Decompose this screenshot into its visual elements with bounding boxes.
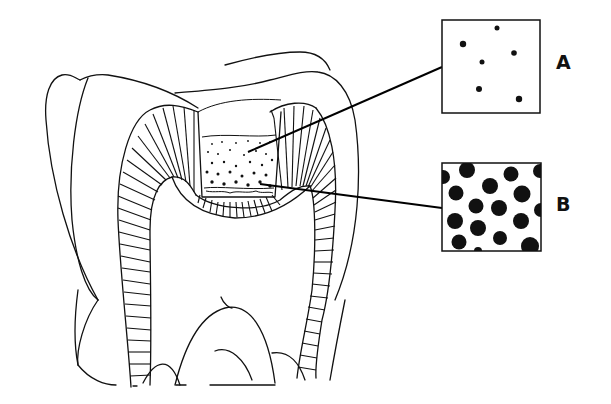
leader-line-b: [260, 184, 442, 208]
label-a: A: [556, 51, 571, 73]
inset-box-b: [436, 162, 548, 255]
leader-line-a: [248, 67, 442, 152]
cavity-particles: [206, 140, 274, 188]
tooth-outline: [46, 52, 359, 386]
label-b: B: [556, 193, 570, 215]
inset-box-a: [442, 20, 540, 113]
cavity: [198, 99, 281, 197]
dentin-layer: [118, 103, 336, 387]
tooth-diagram: [0, 0, 611, 404]
